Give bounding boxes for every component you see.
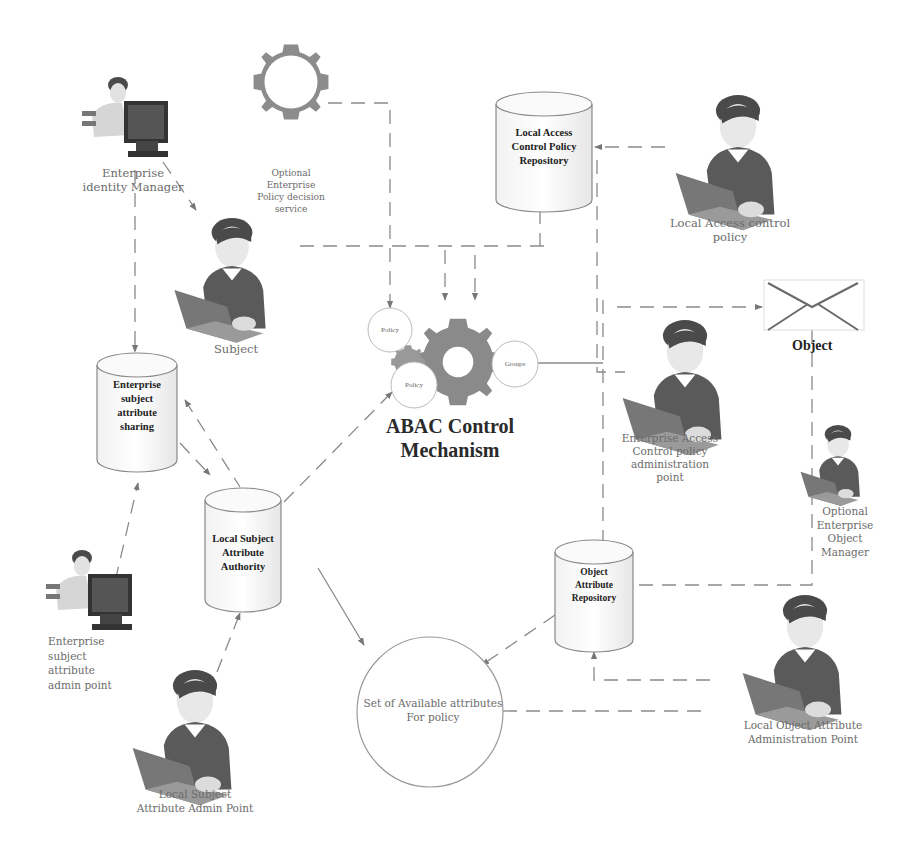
enterprise-identity-manager-icon [82,77,168,157]
enterprise-subject-sharing-label: Enterprise subject attribute sharing [97,378,177,434]
local-access-control-policy-label: Local Access control policy [660,216,800,244]
local-subject-admin-person-icon [133,670,232,805]
available-attributes-label: Set of Available attributes For policy [358,696,508,724]
object-label: Object [792,338,832,354]
subject-person-icon [174,218,265,343]
subject-label: Subject [196,342,276,356]
object-envelope-icon [764,280,864,330]
policy-top-label: Policy [372,326,408,334]
policy-bottom-label: Policy [396,381,432,389]
enterprise-subject-admin-icon [46,550,132,630]
optional-object-manager-person-icon [801,425,860,506]
local-subject-admin-label: Local Subject Attribute Admin Point [130,787,260,815]
object-attr-repo-label: Object Attribute Repository [555,566,633,605]
optional-policy-service-label: Optional Enterprise Policy decision serv… [251,167,331,215]
local-subject-authority-label: Local Subject Attribute Authority [205,532,281,574]
enterprise-access-admin-label: Enterprise Access Control policy adminis… [615,432,725,484]
local-object-admin-label: Local Object Attribute Administration Po… [733,718,873,746]
local-access-control-policy-person-icon [676,95,775,230]
local-object-admin-person-icon [743,595,842,730]
enterprise-subject-admin-label: Enterprise subject attribute admin point [48,634,118,692]
enterprise-identity-manager-label: Enterprise identity Manager [78,166,188,194]
abac-title: ABAC Control Mechanism [360,414,540,462]
optional-object-manager-label: Optional Enterprise Object Manager [805,505,885,559]
policy-service-gear-icon [254,45,329,120]
local-access-repo-label: Local Access Control Policy Repository [496,126,592,168]
groups-label: Groups [497,360,533,368]
